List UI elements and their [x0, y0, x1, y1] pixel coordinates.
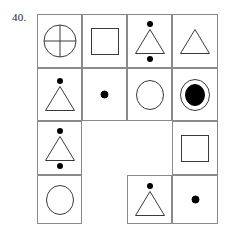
- cell-content: [82, 121, 127, 175]
- matrix-cell-r1c3[interactable]: [172, 68, 218, 121]
- dot-above-icon: [57, 128, 63, 134]
- dot-below-icon: [57, 163, 63, 169]
- matrix-cell-r0c3[interactable]: [172, 14, 218, 68]
- cell-content: [83, 69, 126, 120]
- matrix-cell-r0c1[interactable]: [82, 14, 127, 68]
- matrix-cell-r2c0[interactable]: [37, 121, 82, 175]
- dot-figure: [192, 196, 199, 203]
- dot-above-icon: [57, 78, 63, 84]
- filled-circle-figure: [180, 79, 210, 111]
- matrix-grid: [37, 14, 218, 224]
- cell-content: [128, 15, 171, 67]
- matrix-cell-r3c1[interactable]: [82, 175, 127, 224]
- cell-content: [173, 122, 217, 174]
- triangle-figure: [180, 29, 210, 54]
- cell-content: [127, 121, 172, 175]
- matrix-cell-r0c2[interactable]: [127, 14, 172, 68]
- triangle-figure: [45, 136, 75, 161]
- matrix-cell-r1c1[interactable]: [82, 68, 127, 121]
- cell-content: [128, 69, 171, 120]
- cell-content: [82, 175, 127, 224]
- matrix-cell-r3c3[interactable]: [172, 175, 218, 224]
- matrix-cell-r2c3[interactable]: [172, 121, 218, 175]
- circle-with-cross-figure: [43, 24, 77, 58]
- cell-content: [173, 15, 217, 67]
- cell-content: [128, 176, 171, 223]
- cell-content: [38, 15, 81, 67]
- square-figure: [181, 135, 209, 162]
- cell-content: [83, 15, 126, 67]
- matrix-cell-r2c1[interactable]: [82, 121, 127, 175]
- circle-figure: [136, 80, 164, 110]
- dot-below-icon: [147, 56, 153, 62]
- triangle-figure: [135, 191, 165, 216]
- triangle-figure: [135, 29, 165, 54]
- matrix-cell-r0c0[interactable]: [37, 14, 82, 68]
- cell-content: [38, 176, 81, 223]
- cell-content: [38, 122, 81, 174]
- matrix-cell-r1c2[interactable]: [127, 68, 172, 121]
- dot-above-icon: [147, 21, 153, 27]
- matrix-cell-r3c2[interactable]: [127, 175, 172, 224]
- matrix-cell-r1c0[interactable]: [37, 68, 82, 121]
- cell-content: [173, 176, 217, 223]
- question-number: 40.: [12, 11, 26, 23]
- cell-content: [173, 69, 217, 120]
- circle-figure: [46, 185, 74, 215]
- square-figure: [91, 28, 119, 55]
- triangle-figure: [45, 86, 75, 111]
- dot-above-icon: [147, 183, 153, 189]
- dot-figure: [101, 91, 108, 98]
- matrix-cell-r3c0[interactable]: [37, 175, 82, 224]
- matrix-cell-r2c2[interactable]: [127, 121, 172, 175]
- cell-content: [38, 69, 81, 120]
